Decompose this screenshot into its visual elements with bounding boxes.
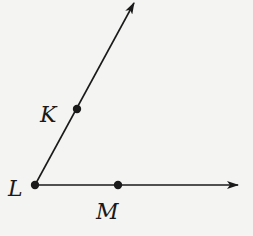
point-l: [31, 181, 39, 189]
label-l: L: [7, 176, 23, 201]
label-k: K: [39, 102, 58, 127]
point-m: [114, 181, 122, 189]
angle-diagram: K L M: [0, 0, 253, 236]
ray-lk: [35, 3, 134, 185]
label-m: M: [95, 199, 119, 224]
point-k: [73, 105, 81, 113]
